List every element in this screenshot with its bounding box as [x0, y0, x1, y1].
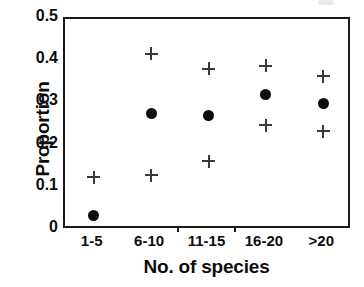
data-point-lower-bound: [259, 119, 272, 132]
data-point-mean: [318, 98, 329, 109]
y-tick-label: 0.2: [0, 134, 58, 152]
scan-artifact: [318, 0, 334, 5]
data-point-mean: [203, 110, 214, 121]
data-marker-layer: [65, 19, 348, 226]
data-point-upper-bound: [202, 62, 215, 75]
y-tick-label: 0.1: [0, 176, 58, 194]
y-tick-label: 0.4: [0, 49, 58, 67]
data-point-lower-bound: [317, 125, 330, 138]
data-point-mean: [88, 210, 99, 221]
x-tick-mark: [234, 226, 236, 232]
data-point-upper-bound: [145, 47, 158, 60]
data-point-upper-bound: [317, 70, 330, 83]
data-point-mean: [260, 89, 271, 100]
data-point-upper-bound: [259, 59, 272, 72]
x-tick-mark: [177, 226, 179, 232]
x-tick-label: >20: [281, 232, 361, 249]
plot-area: [63, 17, 350, 228]
y-tick-label: 0.5: [0, 7, 58, 25]
data-point-lower-bound: [145, 169, 158, 182]
data-point-lower-bound: [202, 155, 215, 168]
y-tick-label: 0.3: [0, 91, 58, 109]
chart-figure: Proportion No. of species 00.10.20.30.40…: [0, 0, 364, 287]
x-axis-title: No. of species: [63, 256, 350, 278]
data-point-lower-bound: [87, 171, 100, 184]
y-tick-label: 0: [0, 218, 58, 236]
data-point-mean: [146, 108, 157, 119]
